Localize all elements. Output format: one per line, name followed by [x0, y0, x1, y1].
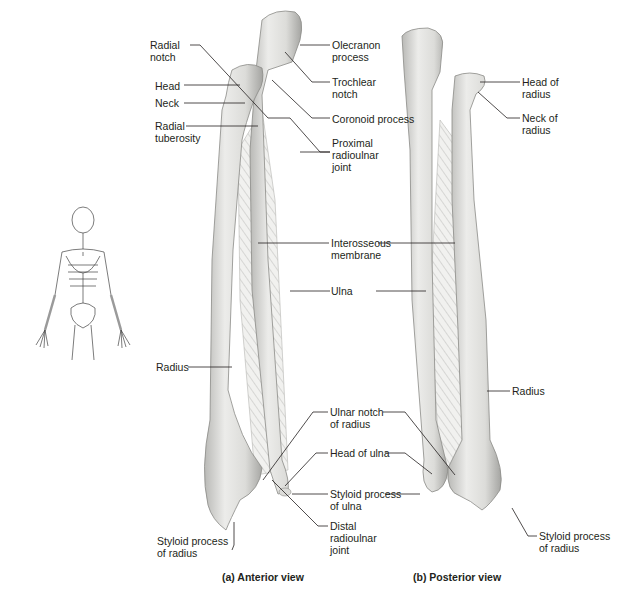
- label-trochlear-notch: Trochlear notch: [332, 76, 376, 100]
- label-coronoid-process: Coronoid process: [332, 113, 414, 125]
- anterior-view-bones: [204, 11, 301, 530]
- caption-posterior-view: (b) Posterior view: [413, 571, 501, 583]
- label-styloid-process-of-radius-anterior: Styloid process of radius: [157, 535, 228, 559]
- label-ulna: Ulna: [331, 285, 353, 297]
- label-radius-posterior: Radius: [512, 385, 545, 397]
- label-radius-anterior: Radius: [156, 361, 189, 373]
- label-neck: Neck: [155, 97, 179, 109]
- posterior-view-bones: [402, 28, 501, 510]
- label-neck-of-radius: Neck of radius: [522, 112, 558, 136]
- skeleton-thumbnail: [36, 207, 130, 360]
- label-interosseous-membrane: Interosseous membrane: [331, 237, 391, 261]
- label-ulnar-notch-of-radius: Ulnar notch of radius: [330, 406, 384, 430]
- label-styloid-process-of-ulna: Styloid process of ulna: [330, 488, 401, 512]
- label-distal-radioulnar-joint: Distal radioulnar joint: [330, 520, 377, 556]
- label-head: Head: [155, 80, 180, 92]
- label-proximal-radioulnar-joint: Proximal radioulnar joint: [332, 137, 379, 173]
- label-head-of-radius: Head of radius: [522, 76, 559, 100]
- caption-anterior-view: (a) Anterior view: [222, 571, 304, 583]
- label-head-of-ulna: Head of ulna: [330, 447, 390, 459]
- label-radial-tuberosity: Radial tuberosity: [155, 120, 201, 144]
- label-olecranon-process: Olecranon process: [332, 39, 380, 63]
- label-styloid-process-of-radius-posterior: Styloid process of radius: [539, 530, 610, 554]
- label-radial-notch: Radial notch: [150, 39, 180, 63]
